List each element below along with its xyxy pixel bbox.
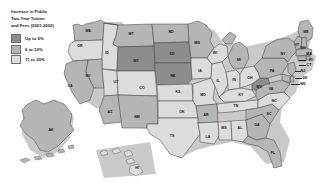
tuition-increase-choropleth-figure: Increase in Public Two-Year Tuition and … [0, 0, 326, 189]
state-AR[interactable] [196, 104, 218, 123]
legend-swatch-up-to-5 [11, 34, 21, 43]
hawaii-inset [96, 142, 156, 178]
leader-line-ct [299, 65, 306, 66]
state-KS[interactable] [157, 84, 193, 101]
legend-items: Up to 5% 6 to 10% 11 to 20% [9, 33, 72, 65]
legend-swatch-6-to-10 [11, 45, 21, 54]
state-DE[interactable] [290, 76, 294, 82]
leader-line-ri [299, 60, 306, 61]
state-ND[interactable] [152, 24, 189, 43]
leader-line-md [291, 84, 300, 85]
legend-item-up-to-5[interactable]: Up to 5% [11, 33, 72, 44]
legend-title-line-1: Increase in Public [11, 9, 72, 16]
map-legend: Increase in Public Two-Year Tuition and … [9, 9, 72, 65]
state-MS[interactable] [218, 121, 232, 140]
state-IA[interactable] [191, 58, 212, 79]
leader-line-de [295, 78, 302, 79]
state-MN[interactable] [188, 21, 214, 58]
legend-label-6-to-10: 6 to 10% [25, 47, 43, 52]
state-ID[interactable] [102, 23, 118, 70]
state-CO[interactable] [117, 71, 157, 96]
state-WY[interactable] [117, 46, 155, 71]
legend-label-11-to-20: 11 to 20% [25, 57, 45, 62]
state-TX[interactable] [147, 118, 200, 158]
legend-label-up-to-5: Up to 5% [25, 36, 44, 41]
legend-swatch-11-to-20 [11, 55, 21, 64]
legend-item-6-to-10[interactable]: 6 to 10% [11, 44, 72, 55]
state-RI[interactable] [306, 56, 310, 60]
state-IN[interactable] [226, 70, 240, 90]
state-NE[interactable] [155, 63, 192, 86]
leader-line-nj [295, 71, 301, 72]
alaska-inset [20, 100, 74, 163]
legend-title-line-3: and Fees (2001-2002) [11, 23, 72, 30]
legend-item-11-to-20[interactable]: 11 to 20% [11, 54, 72, 65]
legend-title-line-2: Two-Year Tuition [11, 16, 72, 23]
state-SD[interactable] [154, 42, 191, 63]
legend-title: Increase in Public Two-Year Tuition and … [11, 9, 72, 30]
state-NM[interactable] [118, 95, 158, 128]
state-LA[interactable] [198, 122, 219, 144]
state-OK[interactable] [158, 101, 198, 118]
state-OR[interactable] [68, 40, 103, 61]
state-WA[interactable] [73, 20, 104, 41]
state-UT[interactable] [102, 69, 118, 96]
